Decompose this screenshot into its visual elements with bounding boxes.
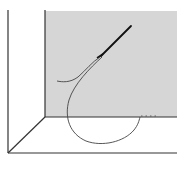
needle-thread-diagram [0, 0, 187, 174]
diagram-canvas [0, 0, 187, 174]
floor-diagonal-edge [8, 117, 45, 153]
back-wall [45, 11, 177, 117]
